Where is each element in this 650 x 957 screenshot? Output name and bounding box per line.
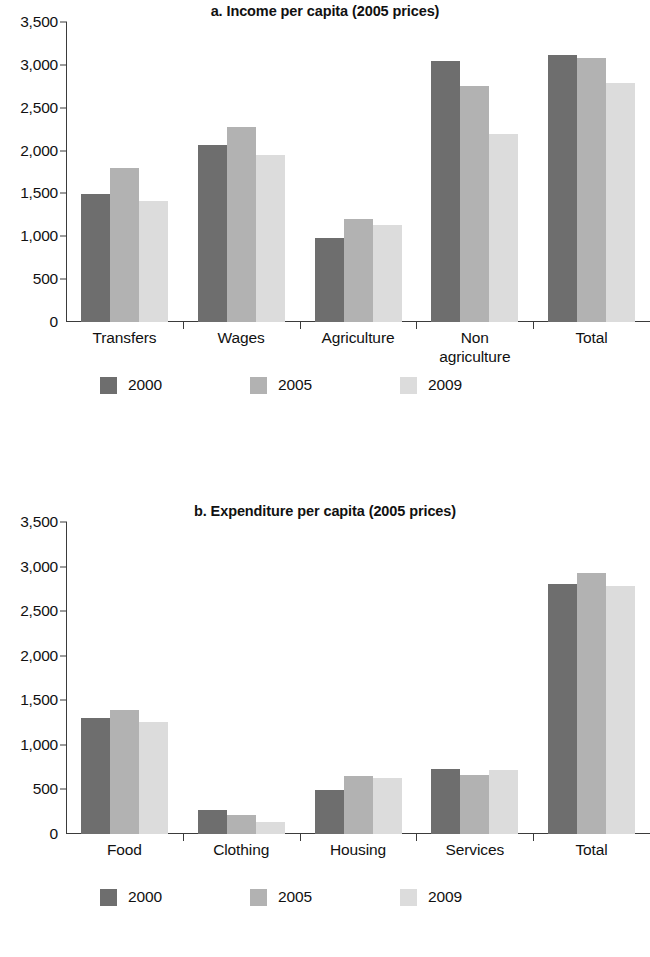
x-category-label: Wages [183, 328, 300, 347]
panel-a-legend: 200020052009 [0, 370, 650, 400]
panel-b-title: b. Expenditure per capita (2005 prices) [0, 500, 650, 522]
bar [315, 238, 344, 322]
bar [81, 194, 110, 322]
legend-swatch-icon [400, 377, 417, 394]
legend-item[interactable]: 2005 [250, 888, 400, 906]
bar-group [431, 522, 518, 834]
legend-swatch-icon [100, 377, 117, 394]
y-tick-label: 1,500 [20, 184, 58, 202]
panel-a-plot-area: 05001,0001,5002,0002,5003,0003,500 [0, 22, 650, 322]
x-category-label: Clothing [183, 840, 300, 859]
y-tick-mark [60, 655, 67, 656]
bar [373, 778, 402, 834]
panel-b-x-labels: FoodClothingHousingServicesTotal [0, 834, 650, 882]
bar [577, 58, 606, 322]
x-category-label: Agriculture [300, 328, 417, 347]
x-category-label: Services [416, 840, 533, 859]
y-tick-mark [60, 236, 67, 237]
y-tick-label: 2,000 [20, 142, 58, 160]
legend-swatch-icon [250, 889, 267, 906]
bar [548, 55, 577, 322]
legend-swatch-icon [250, 377, 267, 394]
legend-item[interactable]: 2000 [100, 888, 250, 906]
bar [577, 573, 606, 834]
bar [81, 718, 110, 834]
bar [460, 775, 489, 834]
x-category-label: Food [66, 840, 183, 859]
bar [198, 145, 227, 322]
legend-item[interactable]: 2009 [400, 888, 550, 906]
bar [373, 225, 402, 322]
bar [227, 815, 256, 834]
bar-group [81, 22, 168, 322]
legend-label: 2000 [128, 376, 162, 394]
panel-b-legend: 200020052009 [0, 882, 650, 912]
legend-item[interactable]: 2000 [100, 376, 250, 394]
y-tick-label: 3,000 [20, 56, 58, 74]
bar [489, 134, 518, 322]
bar-group [548, 522, 635, 834]
y-tick-mark [60, 789, 67, 790]
bar [110, 168, 139, 322]
panel-a-title: a. Income per capita (2005 prices) [0, 0, 650, 22]
x-category-label: Total [533, 328, 650, 347]
bar-group [315, 522, 402, 834]
bar-group [315, 22, 402, 322]
y-tick-label: 2,000 [20, 647, 58, 665]
expenditure-per-capita-figure: b. Expenditure per capita (2005 prices) … [0, 500, 650, 957]
panel-b-plot-area: 05001,0001,5002,0002,5003,0003,500 [0, 522, 650, 834]
legend-label: 2009 [428, 376, 462, 394]
bar [548, 584, 577, 834]
y-tick-label: 3,500 [20, 13, 58, 31]
panel-b-y-axis: 05001,0001,5002,0002,5003,0003,500 [0, 522, 58, 834]
bar [344, 776, 373, 834]
bar [489, 770, 518, 834]
panel-a-bars [66, 22, 650, 322]
bar [110, 710, 139, 834]
y-tick-mark [60, 566, 67, 567]
bar [431, 769, 460, 834]
bar [431, 61, 460, 322]
x-category-label: Transfers [66, 328, 183, 347]
legend-label: 2009 [428, 888, 462, 906]
y-tick-mark [60, 193, 67, 194]
panel-b-bars [66, 522, 650, 834]
y-tick-label: 2,500 [20, 99, 58, 117]
y-tick-mark [60, 64, 67, 65]
bar [227, 127, 256, 322]
bar [315, 790, 344, 834]
x-category-label: Housing [300, 840, 417, 859]
bar-group [198, 22, 285, 322]
y-tick-mark [60, 611, 67, 612]
legend-label: 2000 [128, 888, 162, 906]
legend-item[interactable]: 2009 [400, 376, 550, 394]
y-tick-label: 500 [33, 780, 58, 798]
y-tick-mark [60, 107, 67, 108]
legend-item[interactable]: 2005 [250, 376, 400, 394]
bar-group [548, 22, 635, 322]
panel-a-x-labels: TransfersWagesAgricultureNonagricultureT… [0, 322, 650, 370]
bar [139, 201, 168, 322]
income-per-capita-figure: a. Income per capita (2005 prices) 05001… [0, 0, 650, 470]
y-tick-label: 500 [33, 270, 58, 288]
legend-swatch-icon [100, 889, 117, 906]
legend-label: 2005 [278, 376, 312, 394]
bar-group [81, 522, 168, 834]
panel-a-y-axis: 05001,0001,5002,0002,5003,0003,500 [0, 22, 58, 322]
bar [256, 822, 285, 834]
y-tick-mark [60, 150, 67, 151]
y-tick-mark [60, 279, 67, 280]
bar-group [198, 522, 285, 834]
y-tick-label: 1,000 [20, 736, 58, 754]
bar [606, 586, 635, 834]
x-category-label: Nonagriculture [416, 328, 533, 366]
legend-swatch-icon [400, 889, 417, 906]
bar-group [431, 22, 518, 322]
bar [460, 86, 489, 322]
bar [606, 83, 635, 322]
y-tick-mark [60, 744, 67, 745]
y-tick-label: 2,500 [20, 602, 58, 620]
y-tick-mark [60, 700, 67, 701]
bar [344, 219, 373, 322]
y-tick-label: 3,000 [20, 558, 58, 576]
